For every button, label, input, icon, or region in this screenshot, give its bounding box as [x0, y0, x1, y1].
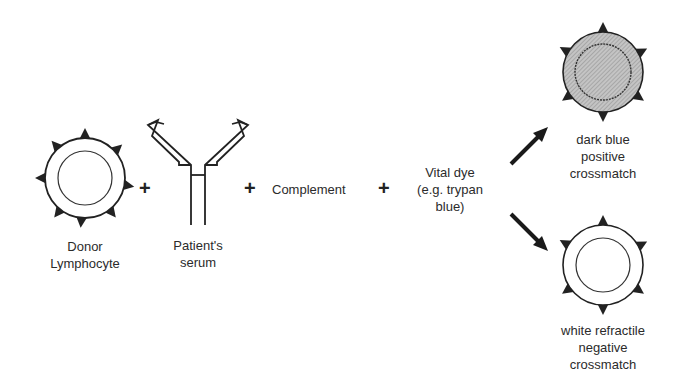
positive-label-line1: dark blue	[553, 131, 653, 148]
serum-label-line2: serum	[148, 254, 248, 271]
negative-label-line1: white refractile	[538, 322, 668, 339]
arrow-to-negative-icon	[511, 214, 548, 251]
vital-dye-line2: (e.g. trypan	[400, 181, 500, 198]
donor-label-line2: Lymphocyte	[35, 255, 135, 272]
plus-operator-3: +	[378, 178, 390, 198]
patient-serum-label: Patient's serum	[148, 237, 248, 271]
vital-dye-label: Vital dye (e.g. trypan blue)	[400, 164, 500, 215]
antibody-icon	[148, 120, 248, 225]
plus-operator-1: +	[139, 178, 151, 198]
donor-label-line1: Donor	[35, 238, 135, 255]
donor-lymphocyte-icon	[35, 128, 135, 228]
positive-crossmatch-label: dark blue positive crossmatch	[553, 131, 653, 182]
positive-label-line3: crossmatch	[553, 165, 653, 182]
negative-crossmatch-label: white refractile negative crossmatch	[538, 322, 668, 373]
serum-label-line1: Patient's	[148, 237, 248, 254]
complement-label: Complement	[272, 181, 362, 198]
vital-dye-line1: Vital dye	[400, 164, 500, 181]
positive-label-line2: positive	[553, 148, 653, 165]
arrow-to-positive-icon	[511, 127, 548, 164]
positive-stained-cell-icon	[557, 22, 650, 122]
plus-operator-2: +	[244, 178, 256, 198]
negative-label-line2: negative	[538, 339, 668, 356]
negative-label-line3: crossmatch	[538, 356, 668, 373]
negative-white-cell-icon	[557, 215, 650, 315]
vital-dye-line3: blue)	[400, 198, 500, 215]
donor-lymphocyte-label: Donor Lymphocyte	[35, 238, 135, 272]
